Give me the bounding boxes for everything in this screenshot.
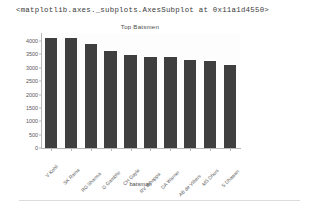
plot-area [41,33,240,148]
bar [184,60,196,148]
y-tick-label: 4000 [26,38,41,44]
chart-title: Top Batsmen [40,23,240,30]
x-tick-mark [71,149,72,151]
x-tick-mark [190,149,191,151]
y-tick-label: 3000 [26,65,41,71]
bar [204,61,216,148]
x-tick-label: V Kohli [45,164,59,178]
x-tick-mark [91,149,92,151]
y-tick-label: 500 [29,132,41,138]
bar [45,38,57,148]
y-axis-spine [41,33,42,149]
bar [164,57,176,148]
x-axis-label: batsman [41,181,240,187]
bar [65,38,77,148]
bar [224,65,236,148]
x-tick-mark [111,149,112,151]
x-tick-mark [170,149,171,151]
bar [124,55,136,148]
y-tick-label: 1500 [26,105,41,111]
bar-series [41,33,240,148]
bar [144,57,156,148]
matplotlib-repr-text: <matplotlib.axes._subplots.AxesSubplot a… [16,6,269,14]
y-tick-label: 3500 [26,51,41,57]
matplotlib-figure: Top Batsmen 0500100015002000250030003500… [0,20,260,192]
bar [104,51,116,148]
horizontal-rule [19,200,300,201]
x-tick-mark [51,149,52,151]
x-tick-label: DA Warner [161,170,181,190]
x-tick-mark [210,149,211,151]
bar [85,44,97,148]
y-tick-label: 2000 [26,92,41,98]
x-tick-mark [230,149,231,151]
y-tick-label: 1000 [26,118,41,124]
x-tick-mark [131,149,132,151]
y-tick-label: 2500 [26,78,41,84]
x-tick-mark [150,149,151,151]
y-tick-label: 0 [35,145,41,151]
